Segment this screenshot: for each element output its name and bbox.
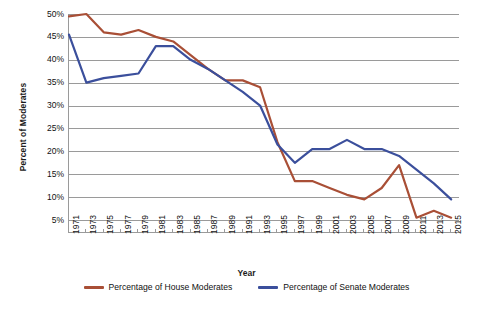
x-axis-tick-mark [259,229,260,233]
x-axis-tick-mark [311,229,312,233]
legend-item[interactable]: Percentage of House Moderates [84,283,233,292]
series-line [69,14,451,218]
y-axis-tick-label: 15% [24,170,64,179]
x-axis-tick-mark [190,229,191,233]
x-axis-tick-mark [329,229,330,233]
y-axis-tick-label: 30% [24,101,64,110]
x-axis-tick-label: 1993 [263,215,272,234]
legend-label: Percentage of House Moderates [109,283,233,292]
plot-area [68,14,459,233]
x-axis-tick-mark [450,229,451,233]
x-axis-tick-mark [155,229,156,233]
x-axis-tick-mark [103,229,104,233]
x-axis-tick-label: 1973 [89,215,98,234]
x-axis-tick-mark [120,229,121,233]
x-axis-tick-label: 1977 [124,215,133,234]
y-axis-tick-label: 40% [24,55,64,64]
x-axis-tick-label: 1991 [245,215,254,234]
y-axis-tick-label: 10% [24,193,64,202]
chart-legend: Percentage of House ModeratesPercentage … [0,283,493,292]
series-lines [69,14,459,232]
x-axis-tick-mark [85,229,86,233]
x-axis-tick-label: 2013 [436,215,445,234]
y-axis-tick-label: 35% [24,78,64,87]
x-axis-tick-mark [415,229,416,233]
y-axis-tick-label: 45% [24,32,64,41]
x-axis-tick-label: 1983 [176,215,185,234]
x-axis-tick-mark [137,229,138,233]
x-axis-tick-mark [172,229,173,233]
legend-label: Percentage of Senate Moderates [283,283,409,292]
x-axis-tick-mark [363,229,364,233]
x-axis-tick-mark [381,229,382,233]
x-axis-tick-mark [276,229,277,233]
x-axis-tick-label: 2015 [454,215,463,234]
x-axis-tick-mark [433,229,434,233]
chart-figure: Percent of Moderates 50%45%40%35%30%25%2… [0,0,493,312]
x-axis-tick-label: 1987 [210,215,219,234]
x-axis-tick-label: 1999 [315,215,324,234]
x-axis-tick-label: 2009 [402,215,411,234]
x-axis-tick-label: 2001 [332,215,341,234]
y-axis-tick-label: 50% [24,10,64,19]
series-line [69,35,451,200]
x-axis-tick-label: 2007 [384,215,393,234]
legend-item[interactable]: Percentage of Senate Moderates [258,283,409,292]
x-axis-tick-mark [242,229,243,233]
x-axis-tick-label: 1997 [297,215,306,234]
x-axis-tick-mark [398,229,399,233]
x-axis-tick-mark [224,229,225,233]
x-axis-tick-label: 2005 [367,215,376,234]
x-axis-tick-mark [294,229,295,233]
x-axis-tick-label: 1979 [141,215,150,234]
x-axis-tick-label: 1971 [72,215,81,234]
x-axis-title: Year [0,268,493,278]
x-axis-tick-label: 1981 [158,215,167,234]
x-axis-tick-label: 1975 [106,215,115,234]
x-axis-tick-mark [346,229,347,233]
x-axis-tick-mark [207,229,208,233]
x-axis-tick-label: 1995 [280,215,289,234]
x-axis-tick-label: 1985 [193,215,202,234]
x-axis-tick-label: 2011 [419,216,428,234]
y-axis-tick-label: 20% [24,147,64,156]
y-axis-tick-label: 5% [24,216,64,225]
x-axis-tick-mark [68,229,69,233]
legend-color-swatch [258,286,278,289]
x-axis-tick-label: 2003 [349,215,358,234]
y-axis-tick-labels: 50%45%40%35%30%25%20%15%10%5% [21,0,64,246]
legend-color-swatch [84,286,104,289]
x-axis-tick-label: 1989 [228,215,237,234]
y-axis-tick-label: 25% [24,124,64,133]
